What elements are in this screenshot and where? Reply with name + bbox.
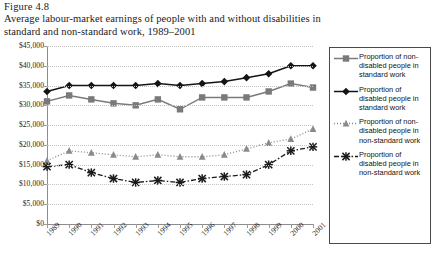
y-axis-tick-label: $25,000 (19, 121, 44, 129)
data-point-square (44, 98, 50, 104)
legend-item-label: Proportion of disabled people in standar… (359, 85, 427, 113)
legend-item-label: Proportion of disabled people in non-sta… (359, 150, 427, 178)
data-point-square (221, 94, 227, 100)
data-point-cross (198, 174, 206, 182)
gridline (47, 145, 313, 146)
data-point-triangle (243, 145, 250, 152)
y-axis-tick-label: $15,000 (19, 161, 44, 169)
y-axis-tick-label: $30,000 (19, 101, 44, 109)
chart-plot-area: $0$5,000$10,000$15,000$20,000$25,000$30,… (0, 46, 322, 267)
data-point-square (243, 94, 249, 100)
data-point-square (155, 96, 161, 102)
data-point-cross (109, 174, 117, 182)
gridline (47, 105, 313, 106)
data-point-diamond (221, 78, 229, 86)
gridline (47, 46, 313, 47)
legend-item[interactable]: Proportion of disabled people in standar… (333, 85, 427, 113)
data-point-triangle (154, 151, 161, 158)
data-point-triangle (66, 147, 73, 154)
chart-panel (47, 46, 313, 224)
gridline (47, 66, 313, 67)
y-axis-tick-label: $40,000 (19, 62, 44, 70)
data-point-triangle (199, 153, 206, 160)
y-axis-tick-label: $5,000 (23, 200, 44, 208)
data-point-square (199, 94, 205, 100)
data-point-square (265, 88, 271, 94)
legend-item[interactable]: Proportion of non-disabled people in sta… (333, 52, 427, 80)
figure-label: Figure 4.8 (4, 1, 49, 13)
square-solid-line-key (333, 53, 359, 64)
diamond-solid-line-key (333, 86, 359, 97)
data-point-cross (87, 168, 95, 176)
data-point-square (343, 55, 349, 61)
data-point-cross (287, 147, 295, 155)
gridline (47, 86, 313, 87)
data-point-cross (242, 170, 250, 178)
y-axis-tick-label: $10,000 (19, 180, 44, 188)
legend-item-label: Proportion of non-disabled people in sta… (359, 52, 427, 80)
data-point-diamond (265, 70, 273, 78)
data-point-square (88, 96, 94, 102)
gridline (47, 125, 313, 126)
gridline (47, 165, 313, 166)
y-axis-tick-label: $45,000 (19, 42, 44, 50)
data-point-cross (220, 172, 228, 180)
y-axis-tick-label: $35,000 (19, 82, 44, 90)
data-point-diamond (342, 87, 350, 95)
x-axis-labels: 1989199019911992199319941995199619971998… (47, 230, 327, 266)
legend-item[interactable]: Proportion of non-disabled people in non… (333, 117, 427, 145)
y-axis-tick-label: $0 (36, 220, 44, 228)
data-point-diamond (243, 74, 251, 82)
figure-container: Figure 4.8 Average labour-market earning… (0, 0, 435, 267)
data-point-triangle (310, 125, 317, 132)
y-axis-tick-label: $20,000 (19, 141, 44, 149)
triangle-dotted-line-key (333, 118, 359, 129)
data-point-square (177, 106, 183, 112)
series-diamond (43, 62, 317, 95)
data-point-triangle (287, 135, 294, 142)
chart-series-layer (47, 46, 313, 224)
data-point-diamond (43, 88, 51, 96)
data-point-cross (154, 176, 162, 184)
cross-dashdot-line-key (333, 151, 359, 162)
legend-item[interactable]: Proportion of disabled people in non-sta… (333, 150, 427, 178)
figure-title: Average labour-market earnings of people… (4, 13, 334, 38)
data-point-cross (342, 152, 350, 160)
chart-legend: Proportion of non-disabled people in sta… (329, 47, 431, 244)
gridline (47, 184, 313, 185)
gridline (47, 204, 313, 205)
data-point-triangle (177, 153, 184, 160)
data-point-square (66, 92, 72, 98)
y-axis-labels: $0$5,000$10,000$15,000$20,000$25,000$30,… (0, 46, 44, 224)
legend-item-label: Proportion of non-disabled people in non… (359, 117, 427, 145)
